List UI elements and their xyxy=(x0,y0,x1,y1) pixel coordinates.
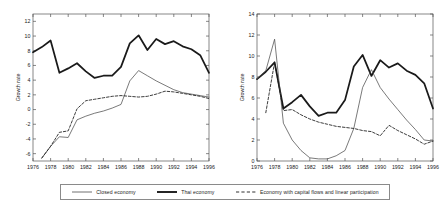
x-tick-label: 1996 xyxy=(427,164,439,170)
x-tick-label: 1986 xyxy=(339,164,351,170)
y-tick-label: -2 xyxy=(26,121,31,127)
y-tick-label: 8 xyxy=(252,74,255,80)
x-tick-label: 1978 xyxy=(269,164,281,170)
y-tick-label: 2 xyxy=(28,92,31,98)
figure-container: -6-4-20246810121976197819801982198419861… xyxy=(0,0,448,209)
x-tick-label: 1976 xyxy=(27,164,39,170)
x-tick-label: 1988 xyxy=(133,164,145,170)
x-tick-label: 1992 xyxy=(168,164,180,170)
line-solid-thin-icon xyxy=(71,189,93,195)
line-solid-thick-icon xyxy=(156,189,178,195)
y-tick-label: 4 xyxy=(252,116,255,122)
chart-panel-left: -6-4-20246810121976197819801982198419861… xyxy=(0,0,224,178)
legend-label-thai-economy: Thai economy xyxy=(181,189,214,195)
y-tick-label: 4 xyxy=(28,77,31,83)
x-tick-label: 1982 xyxy=(80,164,92,170)
x-tick-label: 1986 xyxy=(115,164,127,170)
legend-entry-closed-economy: Closed economy xyxy=(71,189,135,195)
series-line-0 xyxy=(33,35,209,78)
y-axis-title: Growth rate xyxy=(239,74,245,102)
x-tick-label: 1990 xyxy=(150,164,162,170)
legend-label-closed-economy: Closed economy xyxy=(96,189,135,195)
y-tick-label: -4 xyxy=(26,136,31,142)
y-tick-label: 12 xyxy=(25,18,31,24)
x-tick-label: 1988 xyxy=(357,164,369,170)
y-tick-label: 12 xyxy=(249,32,255,38)
x-tick-label: 1980 xyxy=(62,164,74,170)
y-axis-title: Growth rate xyxy=(15,74,21,102)
left-panel-svg: -6-4-20246810121976197819801982198419861… xyxy=(0,0,224,178)
y-tick-label: 10 xyxy=(25,33,31,39)
chart-panel-right: 0246810121419761978198019821984198619881… xyxy=(224,0,448,178)
x-tick-label: 1984 xyxy=(98,164,110,170)
legend: Closed economy Thai economy Economy with… xyxy=(60,184,390,200)
x-tick-label: 1980 xyxy=(286,164,298,170)
y-tick-label: 6 xyxy=(252,95,255,101)
y-tick-label: 0 xyxy=(28,106,31,112)
series-line-2 xyxy=(42,91,209,158)
y-tick-label: 6 xyxy=(28,62,31,68)
y-tick-label: 10 xyxy=(249,53,255,59)
y-tick-label: 2 xyxy=(252,137,255,143)
plot-frame xyxy=(257,14,433,161)
x-tick-label: 1996 xyxy=(203,164,215,170)
legend-entry-capital-flows: Economy with capital flows and linear pa… xyxy=(235,189,379,195)
x-tick-label: 1992 xyxy=(392,164,404,170)
y-tick-label: -6 xyxy=(26,151,31,157)
x-tick-label: 1994 xyxy=(186,164,198,170)
x-tick-label: 1976 xyxy=(251,164,263,170)
legend-label-capital-flows: Economy with capital flows and linear pa… xyxy=(260,189,379,195)
series-line-0 xyxy=(257,55,433,116)
line-dashed-icon xyxy=(235,189,257,195)
x-tick-label: 1978 xyxy=(45,164,57,170)
x-tick-label: 1982 xyxy=(304,164,316,170)
y-tick-label: 14 xyxy=(249,11,255,17)
plot-frame xyxy=(33,14,209,161)
right-panel-svg: 0246810121419761978198019821984198619881… xyxy=(224,0,448,178)
x-tick-label: 1984 xyxy=(322,164,334,170)
x-tick-label: 1990 xyxy=(374,164,386,170)
series-line-1 xyxy=(42,71,209,158)
x-tick-label: 1994 xyxy=(410,164,422,170)
legend-entry-thai-economy: Thai economy xyxy=(156,189,214,195)
y-tick-label: 8 xyxy=(28,48,31,54)
